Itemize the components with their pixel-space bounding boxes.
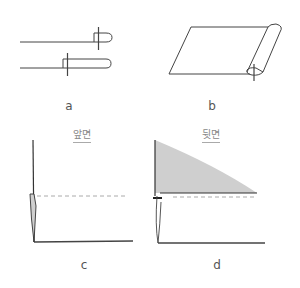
- figure-b-label: b: [208, 100, 216, 112]
- figure-a-label: a: [65, 100, 72, 112]
- figure-c-label: c: [81, 259, 88, 271]
- diagram-canvas: [0, 0, 300, 288]
- strip-bottom: [20, 53, 111, 76]
- back-side-label: 뒷면: [202, 130, 220, 143]
- figure-d-label: d: [213, 259, 221, 271]
- strip-top: [20, 27, 112, 50]
- front-side-label: 앞면: [73, 130, 91, 143]
- figure-d: [153, 140, 265, 243]
- figure-c: [30, 140, 133, 242]
- figure-a: [20, 27, 112, 76]
- figure-b: [169, 24, 281, 81]
